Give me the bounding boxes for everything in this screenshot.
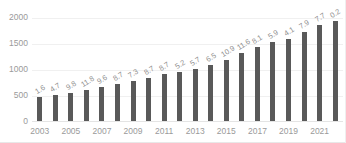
bar[interactable]: [317, 25, 322, 121]
bar-slot: 9.6: [94, 18, 110, 121]
bar-value-label: 8.7: [142, 64, 155, 76]
bar-value-label: 7.7: [313, 11, 326, 23]
bar-value-label: 7.3: [127, 68, 140, 80]
bar-slot: 10.9: [219, 18, 235, 121]
bar[interactable]: [146, 78, 151, 121]
bar-value-label: 8.7: [111, 71, 124, 83]
bar-value-label: 5.7: [189, 55, 202, 67]
bar[interactable]: [255, 47, 260, 121]
bar-chart: 0500100015002000 1.64.79.811.89.68.77.38…: [0, 0, 346, 143]
y-axis-tick-label: 1500: [9, 39, 28, 48]
bar-slot: 4.1: [281, 18, 297, 121]
bar[interactable]: [53, 95, 58, 121]
axis-baseline: [32, 121, 343, 122]
bar-slot: 7.7: [312, 18, 328, 121]
y-axis-tick-label: 2000: [9, 13, 28, 22]
x-axis-tick-label: 2007: [92, 126, 111, 136]
bar[interactable]: [84, 90, 89, 121]
bar-slot: 6.5: [203, 18, 219, 121]
bar[interactable]: [37, 97, 42, 121]
x-axis-slot: 2019: [281, 124, 297, 140]
x-axis-slot: 2015: [219, 124, 235, 140]
plot-area: 1.64.79.811.89.68.77.38.78.75.25.76.510.…: [32, 18, 343, 122]
bar-value-label: 9.6: [96, 73, 109, 85]
bar-value-label: 9.8: [65, 79, 78, 91]
bar-slot: 9.8: [63, 18, 79, 121]
bar[interactable]: [286, 39, 291, 121]
x-axis-tick-label: 2003: [30, 126, 49, 136]
bar-slot: 5.9: [265, 18, 281, 121]
x-axis-tick-label: 2021: [310, 126, 329, 136]
bar[interactable]: [224, 60, 229, 121]
bar-value-label: 6.5: [205, 52, 218, 64]
x-axis: 2003200520072009201120132015201720192021: [32, 124, 343, 140]
x-axis-tick-label: 2011: [155, 126, 173, 136]
x-axis-slot: 2017: [250, 124, 266, 140]
x-axis-tick-label: 2019: [279, 126, 298, 136]
bar-slot: 8.7: [156, 18, 172, 121]
y-axis-tick-label: 500: [14, 91, 28, 100]
bar-slot: 8.7: [110, 18, 126, 121]
x-axis-slot: 2021: [312, 124, 328, 140]
bar-slot: 7.9: [296, 18, 312, 121]
x-axis-slot: 2013: [187, 124, 203, 140]
bar-value-label: 4.7: [49, 82, 62, 94]
bar-value-label: 8.1: [251, 33, 264, 45]
x-axis-slot: 2003: [32, 124, 48, 140]
bar-slot: 5.2: [172, 18, 188, 121]
bar-slot: 1.6: [32, 18, 48, 121]
y-axis: 0500100015002000: [0, 0, 30, 143]
bar-value-label: 1.6: [34, 83, 47, 95]
bar-slot: 5.7: [187, 18, 203, 121]
bar-slot: 4.7: [48, 18, 64, 121]
x-axis-slot: [327, 124, 343, 140]
x-axis-slot: 2009: [125, 124, 141, 140]
bar-value-label: 0.2: [329, 7, 342, 19]
bar[interactable]: [208, 65, 213, 121]
bar[interactable]: [115, 84, 120, 121]
bar-value-label: 8.7: [158, 60, 171, 72]
bar[interactable]: [270, 42, 275, 121]
bar[interactable]: [99, 87, 104, 121]
y-axis-tick-label: 0: [23, 117, 28, 126]
bar-value-label: 7.9: [298, 19, 311, 31]
bar[interactable]: [193, 69, 198, 121]
x-axis-tick-label: 2017: [248, 126, 267, 136]
chart-bottom-border: [0, 142, 346, 143]
bar-slot: 11.8: [79, 18, 95, 121]
bar-value-label: 5.2: [173, 58, 186, 70]
bar-value-label: 4.1: [282, 25, 295, 37]
bar[interactable]: [302, 32, 307, 121]
bar-slot: 8.1: [250, 18, 266, 121]
bar[interactable]: [333, 21, 338, 121]
bar[interactable]: [162, 74, 167, 121]
x-axis-slot: 2005: [63, 124, 79, 140]
bar-value-label: 5.9: [267, 29, 280, 41]
bar[interactable]: [239, 53, 244, 121]
bar-series: 1.64.79.811.89.68.77.38.78.75.25.76.510.…: [32, 18, 343, 121]
bar[interactable]: [177, 72, 182, 121]
x-axis-tick-label: 2015: [217, 126, 236, 136]
y-axis-tick-label: 1000: [9, 65, 28, 74]
x-axis-tick-label: 2005: [61, 126, 80, 136]
x-axis-slot: 2007: [94, 124, 110, 140]
x-axis-tick-label: 2009: [124, 126, 143, 136]
bar-slot: 7.3: [125, 18, 141, 121]
bar-slot: 0.2: [327, 18, 343, 121]
bar-slot: 8.7: [141, 18, 157, 121]
bar[interactable]: [68, 93, 73, 121]
x-axis-tick-label: 2013: [186, 126, 205, 136]
bar[interactable]: [131, 81, 136, 121]
x-axis-slot: 2011: [156, 124, 172, 140]
bar-slot: 11.6: [234, 18, 250, 121]
